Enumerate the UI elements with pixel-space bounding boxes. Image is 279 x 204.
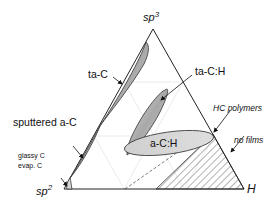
evap-c-label: evap. C <box>18 162 42 170</box>
a-c-h-label: a-C:H <box>150 137 177 149</box>
vertex-sp2-label: sp2 <box>36 183 53 197</box>
ta-c-h-label: ta-C:H <box>195 65 225 77</box>
no-films-label: no films <box>234 135 264 145</box>
sputtered-a-c-label: sputtered a-C <box>13 116 77 128</box>
vertex-h-label: H <box>247 182 256 196</box>
glassy-c-label: glassy C <box>18 152 45 160</box>
glassy-evap-region <box>67 178 72 189</box>
ta-c-label: ta-C <box>88 68 108 80</box>
ternary-diagram: sp3 sp2 H ta-C ta-C:H sputtered a-C a-C:… <box>0 0 279 204</box>
hc-polymers-label: HC polymers <box>213 103 263 113</box>
vertex-sp3-label: sp3 <box>143 10 160 23</box>
